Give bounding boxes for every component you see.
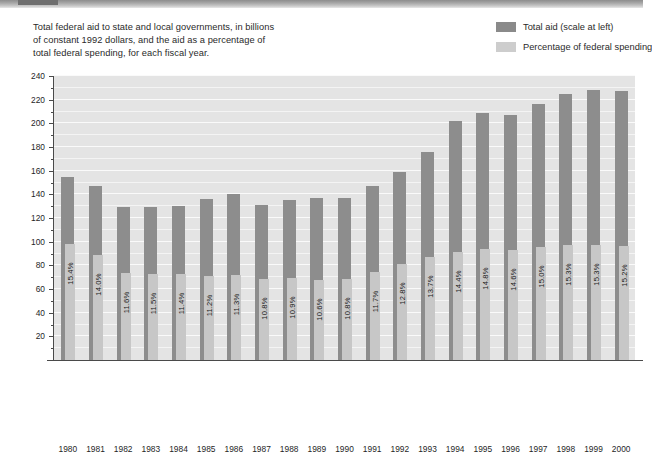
bar-group[interactable]: 10.8% [338, 76, 351, 360]
x-axis-label: 1981 [86, 444, 105, 454]
y-axis-label: 240 [31, 71, 45, 81]
bar-group[interactable]: 14.4% [449, 76, 462, 360]
x-axis-label: 1989 [308, 444, 327, 454]
bar-percentage[interactable]: 15.3% [591, 245, 601, 360]
bar-percentage-label: 10.9% [287, 296, 296, 318]
y-axis-tick-major [49, 218, 54, 219]
bar-percentage[interactable]: 10.8% [259, 279, 269, 360]
bar-group[interactable]: 14.0% [89, 76, 102, 360]
bar-percentage-label: 13.7% [426, 275, 435, 297]
bar-group[interactable]: 13.7% [421, 76, 434, 360]
y-axis-tick-major [49, 265, 54, 266]
y-axis-tick-major [49, 289, 54, 290]
y-axis-tick-minor [51, 183, 54, 184]
bar-group[interactable]: 15.4% [61, 76, 74, 360]
bar-group[interactable]: 11.4% [172, 76, 185, 360]
bar-percentage-label: 11.5% [149, 292, 158, 314]
y-axis-label: 140 [31, 189, 45, 199]
bar-percentage[interactable]: 10.6% [314, 280, 324, 360]
bar-percentage-label: 11.4% [177, 293, 186, 315]
bar-percentage[interactable]: 15.3% [563, 245, 573, 360]
y-axis-label: 100 [31, 237, 45, 247]
bar-percentage[interactable]: 12.8% [397, 264, 407, 360]
y-axis-tick-major [49, 76, 54, 77]
legend-item-total-aid: Total aid (scale at left) [496, 22, 646, 32]
bar-percentage[interactable]: 14.0% [93, 255, 103, 360]
bar-percentage-label: 14.8% [481, 267, 490, 289]
y-axis: 20406080100120140160180200220240 [47, 68, 54, 360]
x-axis-label: 2000 [612, 444, 631, 454]
bar-group[interactable]: 11.7% [366, 76, 379, 360]
bar-group[interactable]: 12.8% [393, 76, 406, 360]
bar-series-container: 15.4%14.0%11.6%11.5%11.4%11.2%11.3%10.8%… [54, 76, 635, 360]
y-axis-label: 160 [31, 166, 45, 176]
bar-percentage[interactable]: 11.5% [148, 274, 158, 360]
x-axis-label: 1992 [391, 444, 410, 454]
bar-group[interactable]: 15.3% [587, 76, 600, 360]
chart-legend: Total aid (scale at left) Percentage of … [496, 22, 646, 62]
bar-percentage[interactable]: 11.4% [176, 274, 186, 360]
caption-line-2: of constant 1992 dollars, and the aid as… [33, 34, 433, 47]
bar-percentage[interactable]: 11.7% [370, 272, 380, 360]
legend-label-total-aid: Total aid (scale at left) [523, 22, 613, 32]
y-axis-tick-minor [51, 206, 54, 207]
legend-item-percentage: Percentage of federal spending [496, 42, 646, 52]
bar-percentage[interactable]: 11.2% [204, 276, 214, 360]
bar-group[interactable]: 11.2% [200, 76, 213, 360]
y-axis-tick-minor [51, 88, 54, 89]
bar-percentage[interactable]: 11.3% [231, 275, 241, 360]
bar-group[interactable]: 15.3% [559, 76, 572, 360]
bar-group[interactable]: 14.6% [504, 76, 517, 360]
bar-group[interactable]: 11.3% [227, 76, 240, 360]
bar-group[interactable]: 10.9% [283, 76, 296, 360]
scan-artifact-bar [0, 0, 643, 8]
bar-percentage[interactable]: 15.0% [536, 247, 546, 360]
y-axis-tick-minor [51, 230, 54, 231]
plot-area: 15.4%14.0%11.6%11.5%11.4%11.2%11.3%10.8%… [54, 76, 635, 360]
bar-percentage-label: 14.6% [509, 269, 518, 291]
bar-group[interactable]: 11.6% [117, 76, 130, 360]
bar-percentage[interactable]: 14.6% [508, 250, 518, 360]
x-axis-label: 1980 [59, 444, 78, 454]
x-axis-label: 1994 [446, 444, 465, 454]
bar-percentage-label: 11.3% [232, 294, 241, 316]
bar-percentage[interactable]: 15.2% [619, 246, 629, 360]
y-axis-tick-minor [51, 254, 54, 255]
y-axis-tick-minor [51, 348, 54, 349]
bar-percentage[interactable]: 14.4% [453, 252, 463, 360]
bar-group[interactable]: 14.8% [476, 76, 489, 360]
bar-percentage-label: 14.0% [94, 273, 103, 295]
bar-chart: 15.4%14.0%11.6%11.5%11.4%11.2%11.3%10.8%… [0, 68, 643, 368]
legend-swatch-total-aid-icon [496, 22, 516, 32]
y-axis-label: 20 [36, 331, 45, 341]
x-axis-label: 1990 [335, 444, 354, 454]
bar-percentage[interactable]: 10.9% [287, 278, 297, 360]
bar-group[interactable]: 15.0% [532, 76, 545, 360]
bar-percentage[interactable]: 10.8% [342, 279, 352, 360]
bar-group[interactable]: 10.6% [310, 76, 323, 360]
bar-percentage[interactable]: 14.8% [480, 249, 490, 360]
y-axis-tick-major [49, 123, 54, 124]
x-axis-label: 1991 [363, 444, 382, 454]
legend-label-percentage: Percentage of federal spending [523, 42, 652, 52]
x-axis-label: 1986 [225, 444, 244, 454]
legend-swatch-percentage-icon [496, 42, 516, 52]
y-axis-tick-minor [51, 301, 54, 302]
bar-percentage[interactable]: 11.6% [121, 273, 131, 360]
y-axis-tick-minor [51, 325, 54, 326]
bar-group[interactable]: 10.8% [255, 76, 268, 360]
y-axis-label: 220 [31, 95, 45, 105]
y-axis-tick-major [49, 100, 54, 101]
bar-percentage[interactable]: 15.4% [65, 244, 75, 360]
y-axis-tick-major [49, 194, 54, 195]
y-axis-tick-major [49, 171, 54, 172]
x-axis-label: 1982 [114, 444, 133, 454]
y-axis-label: 180 [31, 142, 45, 152]
bar-percentage-label: 15.0% [536, 266, 545, 288]
bar-percentage[interactable]: 13.7% [425, 257, 435, 360]
bar-group[interactable]: 11.5% [144, 76, 157, 360]
bar-group[interactable]: 15.2% [615, 76, 628, 360]
y-axis-label: 80 [36, 260, 45, 270]
x-axis-label: 1996 [501, 444, 520, 454]
x-axis-label: 1997 [529, 444, 548, 454]
